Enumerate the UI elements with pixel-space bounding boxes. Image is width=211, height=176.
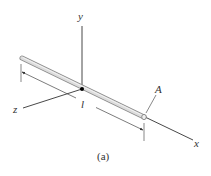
rod-diagram: y z x l A (a) <box>0 0 211 176</box>
x-axis <box>145 117 193 140</box>
y-axis-label: y <box>77 10 83 22</box>
point-a-label: A <box>154 83 162 95</box>
x-axis-label: x <box>193 137 199 149</box>
length-label: l <box>81 98 84 110</box>
figure-caption: (a) <box>97 150 110 163</box>
z-axis <box>23 89 82 108</box>
rod-end-a <box>142 114 147 119</box>
origin-point <box>80 87 84 91</box>
z-axis-label: z <box>12 103 18 115</box>
point-a-leader <box>146 95 156 113</box>
rod <box>22 58 146 120</box>
